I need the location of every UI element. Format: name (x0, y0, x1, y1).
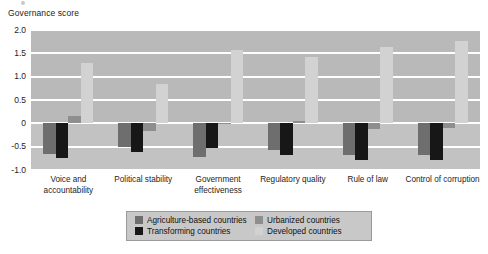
bar (231, 50, 244, 124)
bar (343, 123, 356, 155)
x-axis-category-label: Regulatory quality (256, 175, 331, 186)
bar (268, 123, 281, 150)
bar (81, 63, 94, 124)
legend-swatch (135, 227, 143, 235)
legend-label: Agriculture-based countries (147, 216, 247, 225)
bar (418, 123, 431, 155)
gridline (31, 52, 480, 54)
x-axis-category-label: Political stability (106, 175, 181, 186)
bar (443, 123, 456, 128)
bar (156, 84, 169, 124)
y-axis-tick-label: 0.5 (2, 95, 26, 105)
bar (293, 121, 306, 123)
bar (43, 123, 56, 153)
bar (305, 57, 318, 123)
bar (193, 123, 206, 157)
y-axis-tick-label: 2.0 (2, 25, 26, 35)
legend-label: Developed countries (267, 227, 342, 236)
legend-item: Agriculture-based countries (135, 216, 247, 225)
bar (368, 123, 381, 129)
x-axis-category-label: Control of corruption (405, 175, 480, 186)
legend-swatch (135, 216, 143, 224)
plot-area (31, 30, 480, 170)
gridline (31, 122, 480, 124)
legend-item: Urbanized countries (255, 216, 340, 225)
y-axis-tick-label: 1.5 (2, 48, 26, 58)
y-axis-tick-label: -1.0 (2, 165, 26, 175)
bar (355, 123, 368, 159)
bar (280, 123, 293, 155)
legend-label: Urbanized countries (267, 216, 340, 225)
scan-artifact-dot (21, 1, 25, 5)
legend-swatch (255, 216, 263, 224)
y-axis-tick-label: -0.5 (2, 141, 26, 151)
chart-legend: Agriculture-based countriesTransforming … (126, 211, 372, 241)
legend-item: Developed countries (255, 227, 342, 236)
x-axis-category-label: Voice and accountability (31, 175, 106, 196)
legend-item: Transforming countries (135, 227, 230, 236)
bar (143, 123, 156, 131)
bar (68, 116, 81, 123)
y-axis-tick-label: 1.0 (2, 71, 26, 81)
bar (430, 123, 443, 159)
legend-swatch (255, 227, 263, 235)
bar (118, 123, 131, 146)
legend-label: Transforming countries (147, 227, 230, 236)
gridline (31, 76, 480, 78)
gridline (31, 169, 480, 171)
gridline (31, 146, 480, 148)
y-axis-tick-label: 0 (2, 118, 26, 128)
bar (56, 123, 69, 158)
bar (380, 47, 393, 123)
x-axis-category-label: Rule of law (330, 175, 405, 186)
bar (455, 41, 468, 123)
gridline (31, 29, 480, 31)
y-axis-title: Governance score (8, 8, 79, 18)
gridline (31, 99, 480, 101)
bar (131, 123, 144, 152)
bar (218, 123, 231, 124)
governance-score-chart: Governance score 2.01.51.00.50-0.5-1.0 V… (0, 0, 488, 254)
bar (206, 123, 219, 147)
x-axis-category-label: Government effectiveness (181, 175, 256, 196)
